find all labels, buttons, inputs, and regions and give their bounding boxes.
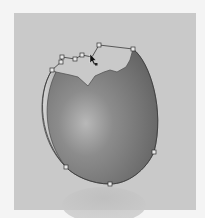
anchor-point[interactable] — [64, 165, 68, 169]
egg-reflection — [62, 187, 146, 218]
vector-artwork[interactable] — [0, 0, 205, 218]
anchor-point[interactable] — [59, 60, 63, 64]
anchor-point[interactable] — [97, 43, 101, 47]
anchor-point[interactable] — [131, 47, 135, 51]
anchor-point[interactable] — [108, 182, 112, 186]
anchor-point[interactable] — [73, 57, 77, 61]
anchor-point[interactable] — [80, 53, 84, 57]
eggshell-body — [47, 49, 158, 184]
anchor-point[interactable] — [152, 150, 156, 154]
anchor-point[interactable] — [50, 68, 54, 72]
anchor-point[interactable] — [60, 55, 64, 59]
direct-selection-arrow-icon — [90, 54, 98, 66]
